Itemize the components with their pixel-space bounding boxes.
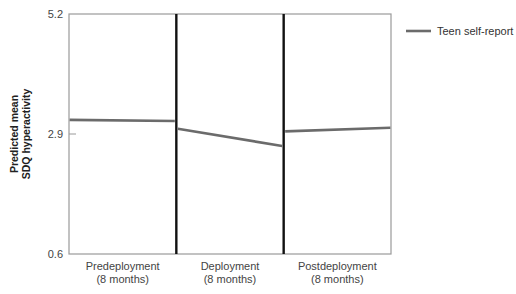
legend-label: Teen self-report xyxy=(437,25,513,37)
line-chart: 0.62.95.2 Predeployment(8 months)Deploym… xyxy=(0,0,516,294)
plot-frame xyxy=(69,14,391,254)
y-axis-title-line2: SDQ hyperactivity xyxy=(20,89,32,180)
y-tick-label: 5.2 xyxy=(48,8,63,20)
series-segment-deployment xyxy=(178,129,282,146)
y-axis-title: Predicted meanSDQ hyperactivity xyxy=(8,89,32,180)
plot-border xyxy=(69,14,391,254)
series-segment-predeployment xyxy=(70,120,175,121)
y-tick-label: 0.6 xyxy=(48,248,63,260)
x-category-sublabel: (8 months) xyxy=(204,273,257,285)
y-axis-label: Predicted meanSDQ hyperactivity xyxy=(8,89,32,180)
y-axis-title-line1: Predicted mean xyxy=(8,95,20,173)
x-category-label: Predeployment xyxy=(86,260,160,272)
period-dividers xyxy=(176,14,283,254)
x-category-sublabel: (8 months) xyxy=(96,273,149,285)
y-axis-ticks: 0.62.95.2 xyxy=(48,8,76,260)
data-series xyxy=(70,120,391,146)
x-axis-categories: Predeployment(8 months)Deployment(8 mont… xyxy=(86,260,377,285)
legend: Teen self-report xyxy=(406,25,513,37)
x-category-label: Postdeployment xyxy=(298,260,377,272)
series-segment-postdeployment xyxy=(285,128,390,132)
x-category-label: Deployment xyxy=(201,260,260,272)
y-tick-label: 2.9 xyxy=(48,128,63,140)
x-category-sublabel: (8 months) xyxy=(311,273,364,285)
